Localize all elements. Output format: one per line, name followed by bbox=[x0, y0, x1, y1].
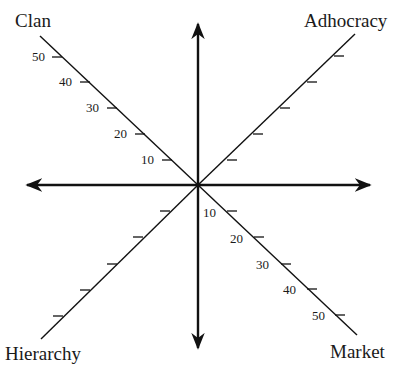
clan-ticks bbox=[52, 57, 172, 160]
market-tick-10: 10 bbox=[203, 206, 216, 219]
clan-tick-10: 10 bbox=[141, 153, 154, 166]
origin-point bbox=[196, 183, 201, 188]
market-tick-20: 20 bbox=[230, 232, 243, 245]
adhocracy-label: Adhocracy bbox=[304, 11, 387, 30]
clan-tick-20: 20 bbox=[114, 127, 127, 140]
adhocracy-diagonal bbox=[198, 34, 355, 185]
clan-tick-40: 40 bbox=[59, 75, 72, 88]
clan-diagonal bbox=[40, 36, 198, 185]
market-tick-40: 40 bbox=[283, 283, 296, 296]
hierarchy-ticks bbox=[53, 211, 170, 316]
adhocracy-ticks bbox=[227, 56, 344, 160]
clan-tick-30: 30 bbox=[86, 101, 99, 114]
market-diagonal bbox=[198, 185, 357, 335]
clan-tick-50: 50 bbox=[32, 50, 45, 63]
hierarchy-label: Hierarchy bbox=[5, 344, 81, 363]
market-tick-50: 50 bbox=[312, 309, 325, 322]
clan-label: Clan bbox=[15, 11, 51, 30]
diagram-canvas bbox=[0, 0, 403, 371]
market-label: Market bbox=[330, 342, 385, 361]
hierarchy-diagonal bbox=[41, 185, 198, 339]
market-tick-30: 30 bbox=[256, 258, 269, 271]
market-ticks bbox=[227, 211, 345, 315]
